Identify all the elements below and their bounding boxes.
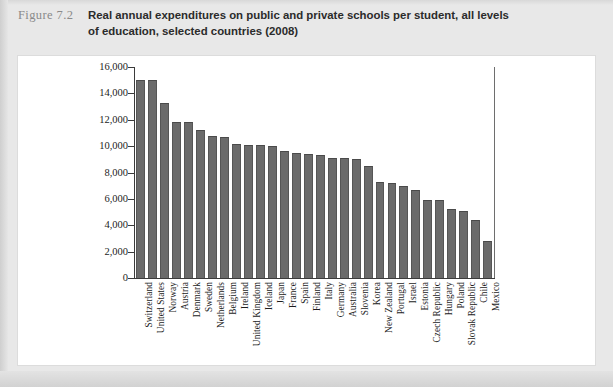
bar [184, 122, 193, 278]
bar [435, 200, 444, 278]
page-edge-left [0, 0, 8, 387]
bar-series [135, 67, 494, 278]
bar [256, 145, 265, 278]
x-axis-label: Sweden [204, 282, 214, 312]
y-axis-tick [128, 146, 134, 147]
y-axis-tick [128, 278, 134, 279]
y-axis-tick-label: 12,000 [62, 114, 128, 125]
x-axis-label: Hungary [444, 282, 454, 315]
x-axis-label: France [288, 282, 298, 308]
y-axis-tick [128, 93, 134, 94]
x-axis-label: Denmark [192, 282, 202, 317]
x-axis-label: Slovak Republic [467, 282, 477, 345]
bar [447, 209, 456, 278]
y-axis-tick [128, 252, 134, 253]
bar [244, 145, 253, 278]
bar [423, 200, 432, 278]
bar [136, 80, 145, 278]
bar [471, 220, 480, 278]
y-axis-tick-label: 10,000 [62, 140, 128, 151]
x-axis-label: Poland [456, 282, 466, 308]
x-axis-label: Portugal [396, 282, 406, 314]
x-axis-label: Israel [408, 282, 418, 303]
x-axis-label: Australia [348, 282, 358, 317]
y-axis-tick-label: 8,000 [62, 167, 128, 178]
bar [483, 241, 492, 278]
bar [172, 122, 181, 278]
y-axis-tick-label: 2,000 [62, 246, 128, 257]
y-axis-tick [128, 67, 134, 68]
bar [232, 144, 241, 279]
bar [304, 154, 313, 278]
x-axis-label: Czech Republic [432, 282, 442, 343]
bar [280, 151, 289, 278]
bar [316, 155, 325, 278]
bar [364, 166, 373, 278]
x-axis-label: United Kingdom [252, 282, 262, 346]
y-axis-tick-label: 16,000 [62, 61, 128, 72]
x-axis-label: Mexico [491, 282, 501, 311]
plot-right-rule [494, 67, 495, 278]
x-axis-label: Spain [300, 282, 310, 304]
x-axis-label: Estonia [420, 282, 430, 311]
bar [340, 158, 349, 278]
figure-header: Figure 7.2Real annual expenditures on pu… [18, 8, 538, 39]
x-axis-label: Belgium [228, 282, 238, 315]
x-axis-label: Austria [180, 282, 190, 310]
x-axis-label: Slovenia [360, 282, 370, 315]
bar [220, 137, 229, 278]
y-axis-tick-label: 14,000 [62, 87, 128, 98]
bar [352, 159, 361, 278]
bar [328, 158, 337, 278]
bar [292, 153, 301, 278]
x-axis-label: New Zealand [384, 282, 394, 333]
bar [196, 130, 205, 278]
x-axis-label: Netherlands [216, 282, 226, 328]
y-axis-tick [128, 120, 134, 121]
bar [388, 183, 397, 278]
chart-panel: 16,00014,00012,00010,0008,0006,0004,0002… [18, 56, 595, 365]
x-axis-label: United States [156, 282, 166, 333]
bar [411, 190, 420, 278]
x-axis-label: Iceland [264, 282, 274, 310]
x-axis-label: Japan [276, 282, 286, 304]
x-axis-label: Germany [336, 282, 346, 317]
x-axis-line [134, 278, 495, 279]
bar [208, 136, 217, 278]
figure-title: Real annual expenditures on public and p… [88, 8, 518, 39]
x-axis-label: Ireland [240, 282, 250, 309]
y-axis-tick [128, 199, 134, 200]
bar-chart: 16,00014,00012,00010,0008,0006,0004,0002… [18, 56, 595, 365]
page-edge-top [0, 0, 613, 5]
y-axis-tick-label: 6,000 [62, 193, 128, 204]
x-axis-label: Korea [372, 282, 382, 305]
x-axis-label: Finland [312, 282, 322, 311]
page-edge-bottom [0, 371, 613, 387]
bar [459, 211, 468, 278]
bar [268, 146, 277, 278]
bar [148, 80, 157, 278]
y-axis-tick-label: 0 [62, 272, 128, 283]
y-axis-tick [128, 225, 134, 226]
bar [160, 103, 169, 278]
x-axis-labels: SwitzerlandUnited StatesNorwayAustriaDen… [135, 282, 494, 362]
x-axis-label: Chile [479, 282, 489, 303]
y-axis-tick-label: 4,000 [62, 219, 128, 230]
bar [376, 182, 385, 278]
x-axis-label: Italy [324, 282, 334, 300]
y-axis-tick [128, 173, 134, 174]
bar [399, 186, 408, 278]
figure-number: Figure 7.2 [18, 8, 88, 23]
x-axis-label: Norway [168, 282, 178, 313]
x-axis-label: Switzerland [144, 282, 154, 328]
